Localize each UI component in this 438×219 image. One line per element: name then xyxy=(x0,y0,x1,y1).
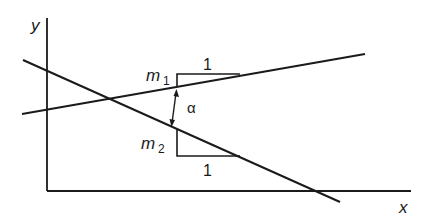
slope-label-m1: m xyxy=(146,66,160,85)
slope-angle-diagram: y x m 1 1 m 2 1 α xyxy=(0,0,438,219)
x-axis-label: x xyxy=(398,198,408,217)
run-label-m1: 1 xyxy=(203,56,212,73)
run-label-m2: 1 xyxy=(203,162,212,179)
slope-sub-m2: 2 xyxy=(158,142,165,156)
line-m2 xyxy=(23,60,340,202)
arrowhead-up-icon xyxy=(174,89,180,97)
angle-arrow xyxy=(172,93,176,123)
slope-sub-m1: 1 xyxy=(163,74,170,88)
slope-label-m2: m xyxy=(141,134,155,153)
y-axis-label: y xyxy=(30,16,41,35)
angle-label: α xyxy=(187,99,196,116)
